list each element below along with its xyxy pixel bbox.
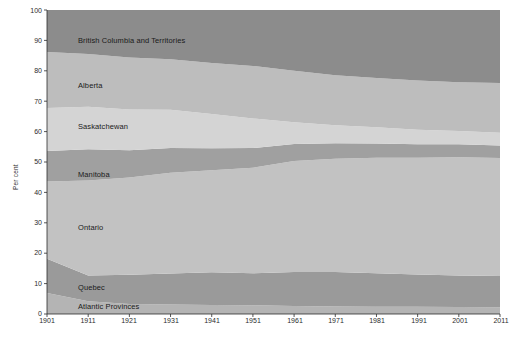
x-tick-1911: 1911 bbox=[73, 317, 103, 324]
x-tick-1981: 1981 bbox=[362, 317, 392, 324]
x-tick-1971: 1971 bbox=[321, 317, 351, 324]
stacked-area-chart: Per cent 100 90 80 70 60 50 40 30 20 10 … bbox=[0, 0, 523, 345]
x-tick-1931: 1931 bbox=[156, 317, 186, 324]
band-label-quebec: Quebec bbox=[78, 283, 105, 292]
x-tick-1961: 1961 bbox=[280, 317, 310, 324]
band-label-atlantic-provinces: Atlantic Provinces bbox=[78, 302, 139, 311]
band-label-ontario: Ontario bbox=[78, 223, 103, 232]
x-tick-2001: 2001 bbox=[445, 317, 475, 324]
band-label-alberta: Alberta bbox=[78, 81, 102, 90]
band-label-saskatchewan: Saskatchewan bbox=[78, 122, 128, 131]
band-label-british-columbia-and-territories: British Columbia and Territories bbox=[78, 36, 185, 45]
x-tick-2011: 2011 bbox=[486, 317, 516, 324]
x-tick-1921: 1921 bbox=[114, 317, 144, 324]
x-tick-1991: 1991 bbox=[404, 317, 434, 324]
x-tick-1901: 1901 bbox=[32, 317, 62, 324]
band-label-manitoba: Manitoba bbox=[78, 170, 110, 179]
x-tick-1951: 1951 bbox=[238, 317, 268, 324]
x-tick-1941: 1941 bbox=[197, 317, 227, 324]
